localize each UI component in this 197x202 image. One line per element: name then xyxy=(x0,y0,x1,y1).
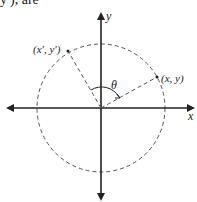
point-rotated-label: (x′, y′) xyxy=(33,43,61,56)
point-original-label: (x, y) xyxy=(161,72,184,85)
rotation-diagram: y x (x, y) (x′, y′) θ xyxy=(0,0,197,202)
point-original xyxy=(156,76,159,79)
y-axis-label: y xyxy=(105,9,112,23)
x-axis-label: x xyxy=(187,109,194,123)
radius-original xyxy=(101,77,157,108)
radius-rotated xyxy=(68,51,101,108)
point-rotated xyxy=(67,50,70,53)
angle-theta-label: θ xyxy=(111,78,117,92)
angle-arc-arrowhead xyxy=(115,94,120,98)
